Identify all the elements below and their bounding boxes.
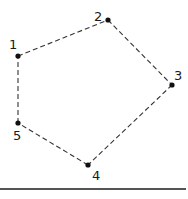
pentagon-diagram: 12345 [0,0,188,199]
vertex-4 [85,162,90,167]
edge-2-3 [108,20,172,85]
edge-4-5 [18,123,88,165]
vertex-label-5: 5 [13,128,21,143]
vertex-3 [169,82,174,87]
vertex-labels: 12345 [9,9,182,183]
edge-3-4 [88,85,172,165]
vertex-2 [105,17,110,22]
vertices [15,17,174,167]
vertex-label-1: 1 [9,37,17,52]
vertex-5 [15,120,20,125]
vertex-label-2: 2 [94,9,102,24]
vertex-1 [15,53,20,58]
edge-1-2 [18,20,108,56]
vertex-label-4: 4 [92,168,100,183]
dashed-edges [18,20,172,165]
vertex-label-3: 3 [174,68,182,83]
